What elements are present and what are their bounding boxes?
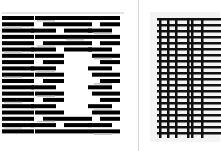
top-border-line — [2, 12, 124, 14]
left-pattern-panel — [0, 0, 137, 151]
panel-divider — [138, 0, 139, 151]
right-grid-pattern — [157, 18, 221, 140]
right-pattern-panel — [150, 12, 220, 142]
figure-canvas — [0, 0, 221, 151]
left-bar-pattern — [2, 16, 127, 141]
